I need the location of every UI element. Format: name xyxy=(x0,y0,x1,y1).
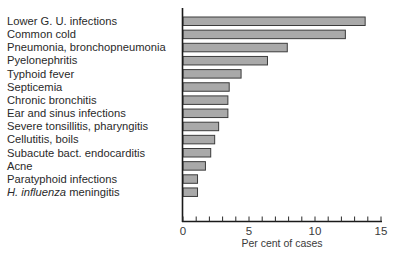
category-label: Subacute bact. endocarditis xyxy=(7,147,145,159)
category-label: Severe tonsillitis, pharyngitis xyxy=(7,120,149,132)
bar xyxy=(183,135,215,144)
x-tick-label: 5 xyxy=(246,225,252,237)
bar xyxy=(183,17,365,26)
x-tick-label: 0 xyxy=(180,225,186,237)
category-label: Paratyphoid infections xyxy=(7,173,117,185)
horizontal-bar-chart: Lower G. U. infectionsCommon coldPneumon… xyxy=(0,0,393,257)
bar xyxy=(183,122,219,131)
bar xyxy=(183,30,345,39)
bar xyxy=(183,175,198,184)
x-axis-label: Per cent of cases xyxy=(241,237,322,249)
bar xyxy=(183,70,241,79)
bars-group xyxy=(183,17,365,196)
bar xyxy=(183,162,205,171)
category-label: H. influenza meningitis xyxy=(7,186,120,198)
x-tick-label: 15 xyxy=(375,225,388,237)
category-label: Pneumonia, bronchopneumonia xyxy=(7,41,166,53)
bar xyxy=(183,96,228,105)
category-label: Common cold xyxy=(7,28,76,40)
bar xyxy=(183,83,229,92)
category-label: Septicemia xyxy=(7,81,63,93)
category-labels: Lower G. U. infectionsCommon coldPneumon… xyxy=(7,15,166,198)
category-label: Pyelonephritis xyxy=(7,54,78,66)
category-label: Typhoid fever xyxy=(7,68,74,80)
bar xyxy=(183,56,267,64)
x-tick-label: 10 xyxy=(309,225,322,237)
category-label: Cellutitis, boils xyxy=(7,133,79,145)
bar xyxy=(183,188,198,197)
x-axis-ticks: 051015 xyxy=(180,217,388,238)
category-label: Ear and sinus infections xyxy=(7,107,126,119)
bar xyxy=(183,43,287,52)
category-label: Lower G. U. infections xyxy=(7,15,117,27)
bar xyxy=(183,149,211,158)
category-label: Acne xyxy=(7,160,33,172)
category-label: Chronic bronchitis xyxy=(7,94,97,106)
bar xyxy=(183,109,228,118)
